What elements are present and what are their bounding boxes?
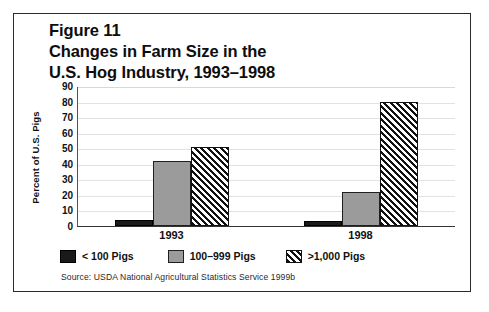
- x-axis-tick-1993: 1993: [159, 229, 183, 241]
- bar-1993-series-3: [191, 147, 229, 226]
- bar-1998-series-1: [304, 221, 342, 226]
- chart-plot-block: Percent of U.S. Pigs 0102030405060708090…: [31, 87, 455, 242]
- legend-item-1: < 100 Pigs: [60, 250, 134, 263]
- figure-title: Figure 11 Changes in Farm Size in the U.…: [49, 20, 449, 83]
- y-axis-tick-50: 50: [62, 144, 73, 154]
- y-axis-title-text: Percent of U.S. Pigs: [30, 111, 41, 203]
- legend-swatch-2: [168, 250, 184, 263]
- chart-legend: < 100 Pigs100–999 Pigs>1,000 Pigs: [60, 247, 365, 265]
- y-axis-tick-20: 20: [62, 191, 73, 201]
- figure-title-line-1: Figure 11: [49, 20, 449, 41]
- bar-1998-series-3: [380, 102, 418, 226]
- figure-title-line-2: Changes in Farm Size in the: [49, 41, 449, 62]
- y-axis-tick-60: 60: [62, 129, 73, 139]
- y-axis-tick-0: 0: [67, 222, 73, 232]
- figure-frame: Figure 11 Changes in Farm Size in the U.…: [13, 13, 471, 292]
- x-axis-tick-1998: 1998: [348, 229, 372, 241]
- bar-group-1993: [111, 87, 233, 226]
- y-axis-tick-70: 70: [62, 113, 73, 123]
- plot-area: [77, 87, 455, 227]
- y-axis-tick-10: 10: [62, 206, 73, 216]
- bar-1998-series-2: [342, 192, 380, 226]
- bar-group-1998: [300, 87, 422, 226]
- legend-label-3: >1,000 Pigs: [308, 250, 366, 262]
- y-axis-tick-labels: 0102030405060708090: [47, 87, 73, 227]
- legend-item-2: 100–999 Pigs: [168, 250, 256, 263]
- source-note: Source: USDA National Agricultural Stati…: [61, 272, 295, 282]
- legend-label-2: 100–999 Pigs: [190, 250, 256, 262]
- legend-swatch-3: [286, 250, 302, 263]
- y-axis-tick-40: 40: [62, 160, 73, 170]
- legend-label-1: < 100 Pigs: [82, 250, 134, 262]
- y-axis-title: Percent of U.S. Pigs: [25, 87, 45, 227]
- bar-1993-series-2: [153, 161, 191, 226]
- legend-item-3: >1,000 Pigs: [286, 250, 366, 263]
- figure-title-line-3: U.S. Hog Industry, 1993–1998: [49, 62, 449, 83]
- y-axis-tick-80: 80: [62, 98, 73, 108]
- bar-1993-series-1: [115, 220, 153, 226]
- legend-swatch-1: [60, 250, 76, 263]
- y-axis-tick-30: 30: [62, 175, 73, 185]
- bars-layer: [78, 87, 455, 226]
- y-axis-tick-90: 90: [62, 82, 73, 92]
- x-axis-tick-labels: 19931998: [77, 229, 455, 245]
